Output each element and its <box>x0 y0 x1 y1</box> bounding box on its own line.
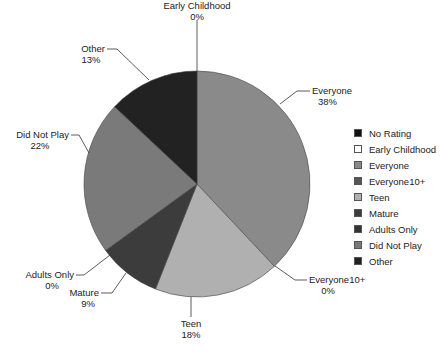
slice-label-early-childhood: Early Childhood 0% <box>163 0 230 22</box>
legend-item: Everyone10+ <box>354 173 436 189</box>
slice-label-everyone: Everyone 38% <box>312 85 352 107</box>
slice-label-mature: Mature 9% <box>69 287 99 309</box>
legend-label: Did Not Play <box>369 240 422 251</box>
svg-text:0%: 0% <box>45 280 59 291</box>
legend-swatch <box>354 145 362 153</box>
legend-label: Teen <box>369 192 390 203</box>
svg-text:0%: 0% <box>321 285 335 296</box>
legend-item: Did Not Play <box>354 237 436 253</box>
legend-item: Adults Only <box>354 221 436 237</box>
slice-label-adults-only: Adults Only 0% <box>25 269 74 291</box>
legend-swatch <box>354 193 362 201</box>
svg-text:Teen: Teen <box>181 318 202 329</box>
legend-label: Everyone10+ <box>369 176 425 187</box>
legend-swatch <box>354 161 362 169</box>
svg-text:9%: 9% <box>81 298 95 309</box>
svg-text:Adults Only: Adults Only <box>25 269 74 280</box>
svg-text:13%: 13% <box>81 54 101 65</box>
legend-swatch <box>354 241 362 249</box>
svg-text:38%: 38% <box>318 96 338 107</box>
legend-label: Other <box>369 256 393 267</box>
legend-item: Mature <box>354 205 436 221</box>
legend-label: Adults Only <box>369 224 418 235</box>
slice-label-other: Other 13% <box>81 43 105 65</box>
legend-swatch <box>354 129 362 137</box>
slice-label-did-not-play: Did Not Play 22% <box>16 129 69 151</box>
pie-slices <box>84 71 310 297</box>
svg-text:0%: 0% <box>190 11 204 22</box>
chart-legend: No RatingEarly ChildhoodEveryoneEveryone… <box>354 125 436 269</box>
svg-text:Everyone: Everyone <box>312 85 352 96</box>
svg-text:Everyone10+: Everyone10+ <box>309 274 366 285</box>
legend-swatch <box>354 225 362 233</box>
svg-text:Mature: Mature <box>69 287 99 298</box>
legend-label: Early Childhood <box>369 144 436 155</box>
svg-text:Other: Other <box>81 43 105 54</box>
svg-text:22%: 22% <box>30 140 50 151</box>
legend-label: Mature <box>369 208 399 219</box>
slice-label-everyone10: Everyone10+ 0% <box>309 274 366 296</box>
svg-text:18%: 18% <box>181 329 201 340</box>
legend-label: Everyone <box>369 160 409 171</box>
legend-swatch <box>354 209 362 217</box>
slice-label-teen: Teen 18% <box>181 318 202 340</box>
legend-item: No Rating <box>354 125 436 141</box>
svg-text:Did Not Play: Did Not Play <box>16 129 69 140</box>
legend-label: No Rating <box>369 128 411 139</box>
legend-swatch <box>354 177 362 185</box>
svg-text:Early Childhood: Early Childhood <box>163 0 230 11</box>
legend-item: Other <box>354 253 436 269</box>
legend-item: Teen <box>354 189 436 205</box>
legend-item: Early Childhood <box>354 141 436 157</box>
legend-item: Everyone <box>354 157 436 173</box>
legend-swatch <box>354 257 362 265</box>
